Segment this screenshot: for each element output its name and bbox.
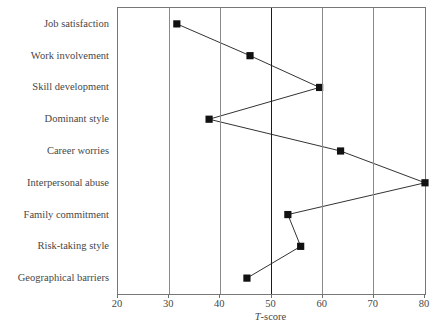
category-label-3: Skill development [32, 81, 109, 92]
category-label-4: Dominant style [45, 113, 109, 124]
category-label-7: Family commitment [24, 208, 109, 219]
data-marker-8 [297, 243, 304, 250]
data-marker-1 [173, 20, 180, 27]
category-label-8: Risk-taking style [38, 240, 109, 251]
gridline-30 [169, 8, 170, 294]
x-tick-label-30: 30 [163, 298, 174, 309]
x-tick-label-50: 50 [265, 298, 276, 309]
data-marker-5 [337, 147, 344, 154]
category-label-5: Career worries [47, 145, 109, 156]
data-marker-9 [243, 275, 250, 282]
category-label-1: Job satisfaction [44, 17, 109, 28]
x-axis-title-rest: -score [261, 311, 287, 322]
x-axis-title: T-score [255, 311, 287, 322]
data-marker-2 [246, 52, 253, 59]
plot-inner [118, 8, 425, 294]
x-tick-label-80: 80 [419, 298, 430, 309]
gridline-50 [271, 8, 272, 294]
gridline-40 [220, 8, 221, 294]
category-label-9: Geographical barriers [18, 272, 109, 283]
gridline-70 [373, 8, 374, 294]
data-marker-4 [205, 116, 212, 123]
category-label-2: Work involvement [31, 49, 109, 60]
data-marker-6 [421, 179, 428, 186]
plot-area [117, 7, 426, 295]
x-tick-label-20: 20 [112, 298, 123, 309]
x-tick-label-70: 70 [368, 298, 379, 309]
data-marker-7 [284, 211, 291, 218]
x-tick-label-60: 60 [316, 298, 327, 309]
series-polyline [177, 24, 425, 278]
category-label-6: Interpersonal abuse [27, 176, 109, 187]
category-axis-labels: Job satisfactionWork involvementSkill de… [0, 0, 112, 300]
x-tick-label-40: 40 [214, 298, 225, 309]
chart-figure: Job satisfactionWork involvementSkill de… [0, 0, 439, 330]
gridline-60 [322, 8, 323, 294]
